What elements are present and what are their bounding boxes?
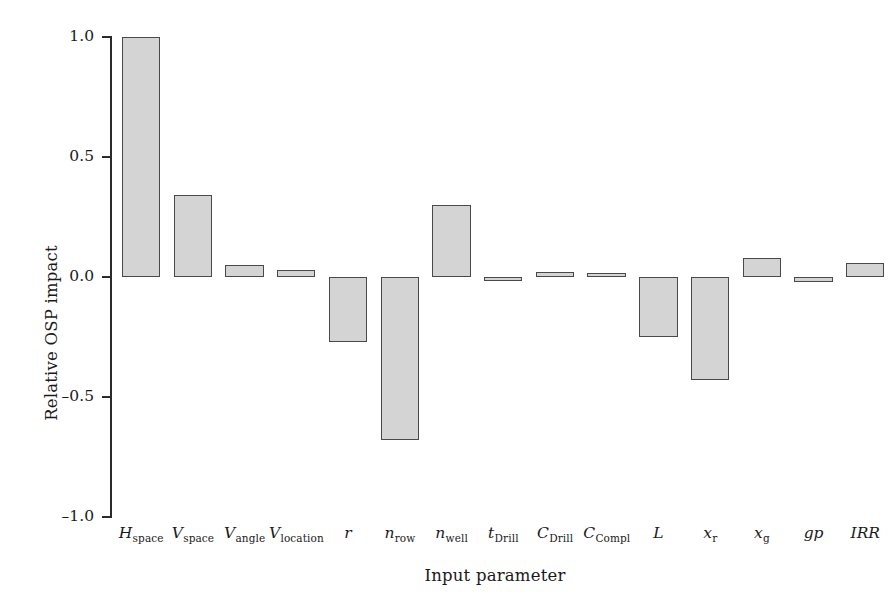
x-axis-tick-label-v-space: Vspace bbox=[172, 524, 214, 542]
x-axis-title: Input parameter bbox=[105, 566, 885, 585]
y-axis-tick bbox=[102, 36, 110, 38]
bar-x-r bbox=[691, 277, 729, 380]
bar-v-angle bbox=[225, 265, 263, 277]
y-axis-tick-label: –1.0 bbox=[30, 509, 94, 525]
bar-n-row bbox=[381, 277, 419, 440]
x-axis-tick-label-v-location: Vlocation bbox=[269, 524, 324, 542]
bar-h-space bbox=[122, 37, 160, 277]
bar-v-location bbox=[277, 270, 315, 277]
y-axis-tick bbox=[102, 156, 110, 158]
x-axis-tick-label-gp: gp bbox=[804, 524, 824, 542]
x-axis-tick-label-l: L bbox=[653, 524, 663, 542]
x-axis-tick-label-n-well: nwell bbox=[435, 524, 467, 542]
bar-r bbox=[329, 277, 367, 342]
x-axis-tick-label-c-compl: CCompl bbox=[583, 524, 630, 542]
y-axis-tick bbox=[102, 276, 110, 278]
bar-chart-figure: Relative OSP impact 1.00.50.0–0.5–1.0 Hs… bbox=[0, 0, 891, 610]
x-axis-tick-label-x-r: xr bbox=[703, 524, 717, 542]
plot-area bbox=[110, 37, 886, 517]
x-axis-tick-label-r: r bbox=[344, 524, 351, 542]
y-axis-tick-label: 0.0 bbox=[30, 269, 94, 285]
bar-t-drill bbox=[484, 277, 522, 281]
y-axis-tick-labels: 1.00.50.0–0.5–1.0 bbox=[28, 0, 94, 610]
x-axis-tick-labels: HspaceVspaceVangleVlocationrnrownwelltDr… bbox=[0, 524, 891, 564]
bar-n-well bbox=[432, 205, 470, 277]
x-axis-tick-label-n-row: nrow bbox=[384, 524, 415, 542]
bar-irr bbox=[846, 263, 884, 277]
y-axis-tick-label: –0.5 bbox=[30, 389, 94, 405]
bar-c-compl bbox=[587, 273, 625, 277]
x-axis-tick-label-irr: IRR bbox=[851, 524, 880, 542]
y-axis-tick bbox=[102, 396, 110, 398]
x-axis-tick-label-t-drill: tDrill bbox=[488, 524, 518, 542]
x-axis-tick-label-h-space: Hspace bbox=[119, 524, 164, 542]
x-axis-tick-label-c-drill: CDrill bbox=[537, 524, 573, 542]
bar-v-space bbox=[174, 195, 212, 277]
bar-l bbox=[639, 277, 677, 337]
y-axis-tick-label: 1.0 bbox=[30, 29, 94, 45]
y-axis-tick bbox=[102, 516, 110, 518]
bar-x-g bbox=[743, 258, 781, 277]
bar-c-drill bbox=[536, 272, 574, 277]
y-axis-tick-label: 0.5 bbox=[30, 149, 94, 165]
bar-gp bbox=[794, 277, 832, 282]
x-axis-tick-label-x-g: xg bbox=[754, 524, 770, 542]
x-axis-tick-label-v-angle: Vangle bbox=[224, 524, 265, 542]
